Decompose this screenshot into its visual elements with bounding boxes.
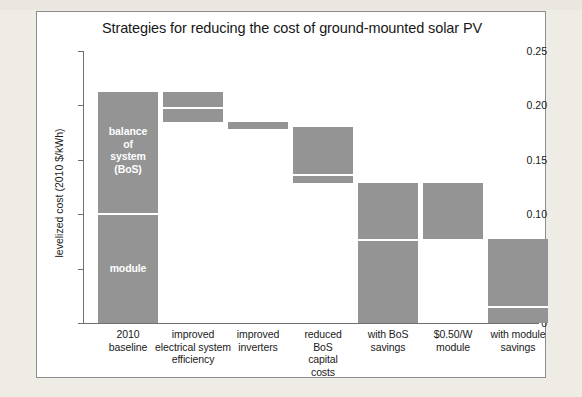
x-label-line-2: module (436, 341, 470, 353)
x-tick-label-reduced-bos-capital-costs: reduced BoS capital costs (288, 328, 358, 378)
y-tick-0.05 (78, 269, 84, 270)
bar-divider-improved-electrical-system-efficiency (163, 107, 223, 109)
y-tick-0.10 (78, 214, 84, 215)
x-label-line-1: $0.50/W (434, 328, 472, 340)
bar-label-line-2: of (123, 138, 133, 150)
y-axis-line (83, 51, 84, 324)
bar-050w-module[interactable] (423, 183, 483, 239)
x-label-line-2: savings (371, 341, 406, 353)
y-tick-0.20 (78, 105, 84, 106)
y-tick-label-0.20: 0.20 (511, 99, 547, 111)
plot-area: 0.25 0.20 0.15 0.10 0.05 0 levelized cos… (37, 12, 547, 379)
y-tick-label-0.10: 0.10 (511, 208, 547, 220)
bar-divider-reduced-bos-capital-costs (293, 174, 353, 176)
x-label-line-2: baseline (109, 341, 147, 353)
bar-label-line-1: balance (109, 125, 147, 137)
x-label-line-1: with BoS (368, 328, 409, 340)
x-label-line-1: 2010 (117, 328, 140, 340)
x-label-line-2: inverters (238, 341, 277, 353)
bar-divider-2010-baseline (98, 213, 158, 215)
x-tick-label-050w-module: $0.50/W module (418, 328, 488, 353)
x-label-line-2: BoS (313, 341, 333, 353)
x-label-line-2: savings (501, 341, 536, 353)
y-tick-0 (78, 323, 84, 324)
x-tick-label-2010-baseline: 2010 baseline (93, 328, 163, 353)
y-tick-0.15 (78, 160, 84, 161)
bar-improved-inverters[interactable] (228, 122, 288, 129)
x-axis-line (83, 323, 539, 324)
x-label-line-1: reduced (304, 328, 341, 340)
bar-with-module-savings[interactable] (488, 239, 548, 323)
x-label-line-1: with module (491, 328, 546, 340)
bar-label-line-3: system (110, 150, 146, 162)
bar-label-line-4: (BoS) (114, 163, 142, 175)
x-tick-label-with-module-savings: with module savings (480, 328, 556, 353)
y-tick-label-0.25: 0.25 (511, 45, 547, 57)
figure-frame: Strategies for reducing the cost of grou… (36, 11, 546, 378)
page-background-strip (0, 0, 582, 10)
bar-divider-with-module-savings (488, 306, 548, 308)
bar-divider-with-bos-savings (358, 239, 418, 241)
x-tick-label-improved-electrical-system-efficiency: improved electrical system efficiency (155, 328, 231, 366)
bar-label-module: module (98, 262, 158, 275)
page-root: Strategies for reducing the cost of grou… (0, 0, 582, 397)
x-label-line-3: efficiency (172, 353, 215, 365)
x-label-line-2: electrical system (155, 341, 231, 353)
y-axis-title: levelized cost (2010 $/kWh) (53, 83, 65, 303)
x-label-line-3: capital (308, 353, 338, 365)
x-label-line-1: improved (237, 328, 279, 340)
x-label-line-4: costs (311, 366, 335, 378)
bar-with-bos-savings[interactable] (358, 183, 418, 323)
x-tick-label-with-bos-savings: with BoS savings (353, 328, 423, 353)
x-tick-label-improved-inverters: improved inverters (223, 328, 293, 353)
y-tick-label-0.15: 0.15 (511, 154, 547, 166)
bar-label-balance-of-system: balance of system (BoS) (98, 125, 158, 175)
x-label-line-1: improved (172, 328, 214, 340)
y-tick-0.25 (78, 51, 84, 52)
